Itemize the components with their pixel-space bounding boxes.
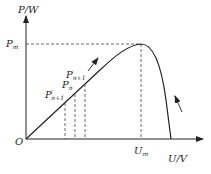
direction-arrow-left [88,58,98,71]
point-n-label: Pn [61,79,73,91]
y-axis-label: P/W [17,4,39,15]
origin-label: O [15,136,23,147]
x-axis-label: U/V [168,153,189,164]
um-label: Um [134,145,148,157]
point-n1-prime-label: P′n+1 [44,89,64,101]
pv-curve-diagram: P/W O Pm Um U/V Pn+1 Pn P′n+1 [0,0,211,174]
direction-arrow-right [175,96,182,112]
pm-label: Pm [5,38,19,50]
